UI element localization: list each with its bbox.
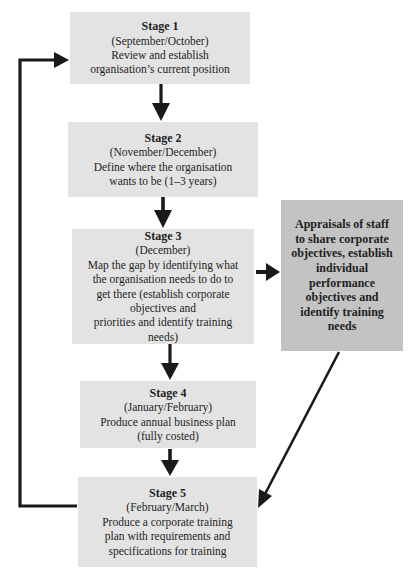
stage-1-title: Stage 1: [142, 19, 179, 33]
appraisal-line: needs: [328, 319, 357, 334]
arrow-stage3-to-appraisal: [256, 263, 280, 281]
stage-4-period: (January/February): [124, 400, 212, 414]
stage-3-desc-line: the organisation needs to do to: [93, 272, 234, 286]
appraisal-line: objectives, establish: [291, 246, 392, 261]
arrow-stage1-to-stage2: [152, 84, 170, 121]
stage-4-box: Stage 4 (January/February) Produce annua…: [80, 381, 256, 448]
appraisal-line: identify training: [300, 305, 384, 320]
appraisal-box: Appraisals of staff to share corporate o…: [281, 200, 403, 351]
stage-5-title: Stage 5: [149, 486, 186, 500]
stage-5-period: (February/March): [126, 500, 208, 514]
stage-3-period: (December): [136, 243, 191, 257]
stage-1-period: (September/October): [111, 34, 208, 48]
stage-2-title: Stage 2: [145, 131, 182, 145]
stage-3-desc-line: get there (establish corporate: [96, 287, 229, 301]
arrow-stage2-to-stage3: [154, 197, 172, 228]
appraisal-line: performance: [309, 276, 375, 291]
stage-3-title: Stage 3: [145, 229, 182, 243]
stage-5-desc-line: Produce a corporate training: [102, 515, 233, 529]
stage-2-desc-line: Define where the organisation: [94, 160, 233, 174]
stage-5-desc-line: plan with requirements and: [105, 529, 231, 543]
stage-3-desc-line: priorities and identify training: [94, 315, 232, 329]
stage-2-box: Stage 2 (November/December) Define where…: [68, 122, 258, 197]
stage-1-desc-line: organisation’s current position: [90, 62, 230, 76]
appraisal-line: individual: [316, 261, 368, 276]
stage-3-box: Stage 3 (December) Map the gap by identi…: [72, 229, 254, 344]
stage-5-box: Stage 5 (February/March) Produce a corpo…: [78, 477, 257, 567]
arrow-stage3-to-stage4: [161, 344, 179, 380]
arrow-loop-stage5-to-stage1: [20, 52, 77, 506]
stage-3-desc-line: Map the gap by identifying what: [88, 258, 238, 272]
stage-5-desc-line: specifications for training: [108, 544, 226, 558]
arrow-appraisal-to-stage5: [258, 352, 339, 508]
stage-3-desc-line: objectives and: [130, 301, 196, 315]
appraisal-line: to share corporate: [295, 232, 389, 247]
stage-4-desc-line: (fully costed): [137, 429, 199, 443]
appraisal-line: objectives and: [306, 290, 379, 305]
stage-3-desc-line: needs): [148, 330, 178, 344]
stage-4-title: Stage 4: [150, 386, 187, 400]
stage-4-desc-line: Produce annual business plan: [100, 415, 236, 429]
arrow-stage4-to-stage5: [161, 449, 179, 476]
stage-1-desc-line: Review and establish: [111, 48, 209, 62]
stage-2-period: (November/December): [110, 145, 217, 159]
appraisal-line: Appraisals of staff: [295, 217, 389, 232]
stage-1-box: Stage 1 (September/October) Review and e…: [70, 12, 250, 84]
stage-2-desc-line: wants to be (1–3 years): [109, 174, 216, 188]
